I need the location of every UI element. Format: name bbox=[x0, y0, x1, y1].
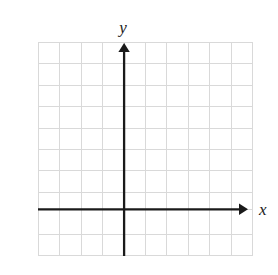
x-axis-label: x bbox=[258, 200, 267, 219]
y-axis-label: y bbox=[117, 18, 127, 37]
coordinate-plane-figure: x y bbox=[0, 0, 278, 275]
graph-canvas: x y bbox=[0, 0, 278, 275]
